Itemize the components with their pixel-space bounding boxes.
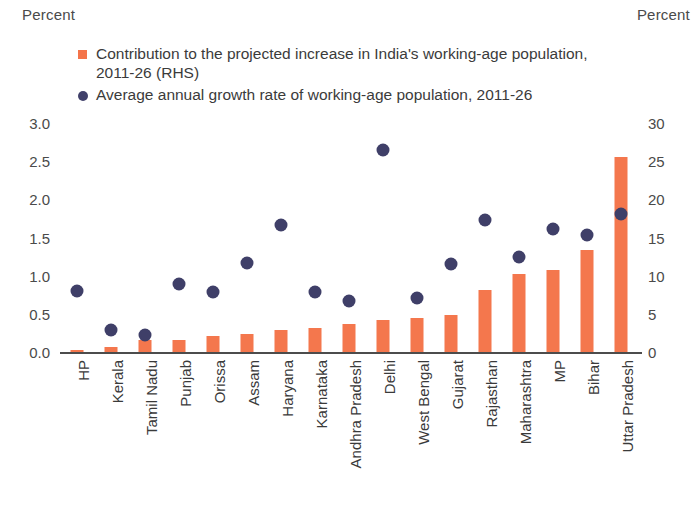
dot-punjab — [173, 278, 186, 291]
dot-uttar-pradesh — [615, 207, 628, 220]
x-tick-slot: MP — [536, 356, 570, 528]
bar-karnataka — [309, 328, 322, 352]
x-tick-slot: Gujarat — [434, 356, 468, 528]
chart-column — [162, 123, 196, 352]
right-y-tick-0: 0 — [648, 344, 656, 361]
chart-column — [264, 123, 298, 352]
left-y-tick-2.5: 2.5 — [29, 153, 50, 170]
legend-label-bar-series: Contribution to the projected increase i… — [96, 44, 596, 82]
dot-mp — [547, 223, 560, 236]
x-tick-label-delhi: Delhi — [383, 360, 396, 394]
x-tick-slot: Uttar Pradesh — [604, 356, 638, 528]
right-y-tick-30: 30 — [648, 115, 665, 132]
x-tick-label-assam: Assam — [247, 360, 260, 406]
bar-bihar — [581, 250, 594, 352]
chart-container: Percent Percent Contribution to the proj… — [0, 0, 698, 532]
bar-mp — [547, 270, 560, 352]
x-tick-slot: Rajasthan — [468, 356, 502, 528]
chart-column — [570, 123, 604, 352]
dot-kerala — [105, 323, 118, 336]
chart-column — [332, 123, 366, 352]
x-tick-label-orissa: Orissa — [213, 360, 226, 403]
chart-column — [604, 123, 638, 352]
right-y-axis: 051015202530 — [648, 0, 698, 532]
x-tick-slot: Karnataka — [298, 356, 332, 528]
left-y-tick-1.0: 1.0 — [29, 267, 50, 284]
x-tick-slot: Maharashtra — [502, 356, 536, 528]
dot-bihar — [581, 229, 594, 242]
x-tick-slot: Kerala — [94, 356, 128, 528]
chart-column — [196, 123, 230, 352]
x-tick-slot: Bihar — [570, 356, 604, 528]
left-y-tick-1.5: 1.5 — [29, 229, 50, 246]
dot-hp — [71, 284, 84, 297]
bar-assam — [241, 334, 254, 352]
x-tick-label-haryana: Haryana — [281, 360, 294, 417]
x-axis-labels: HPKeralaTamil NaduPunjabOrissaAssamHarya… — [60, 356, 638, 528]
chart-column — [468, 123, 502, 352]
chart-column — [434, 123, 468, 352]
x-tick-label-karnataka: Karnataka — [315, 360, 328, 428]
chart-column — [298, 123, 332, 352]
bar-delhi — [377, 320, 390, 352]
x-tick-label-bihar: Bihar — [587, 360, 600, 395]
x-tick-label-west-bengal: West Bengal — [417, 360, 430, 445]
dot-west-bengal — [411, 291, 424, 304]
dot-andhra-pradesh — [343, 294, 356, 307]
chart-column — [128, 123, 162, 352]
dot-delhi — [377, 143, 390, 156]
dot-haryana — [275, 219, 288, 232]
x-tick-slot: West Bengal — [400, 356, 434, 528]
right-y-tick-25: 25 — [648, 153, 665, 170]
bar-andhra-pradesh — [343, 324, 356, 352]
bar-rajasthan — [479, 290, 492, 352]
chart-column — [366, 123, 400, 352]
x-tick-label-tamil-nadu: Tamil Nadu — [145, 360, 158, 435]
dot-rajasthan — [479, 213, 492, 226]
chart-legend: Contribution to the projected increase i… — [78, 44, 598, 107]
right-y-tick-20: 20 — [648, 191, 665, 208]
bar-west-bengal — [411, 318, 424, 352]
x-tick-slot: HP — [60, 356, 94, 528]
left-y-axis: 0.00.51.01.52.02.53.0 — [0, 0, 50, 532]
left-y-tick-2.0: 2.0 — [29, 191, 50, 208]
legend-item-bar-series: Contribution to the projected increase i… — [78, 44, 598, 82]
x-tick-slot: Assam — [230, 356, 264, 528]
x-tick-label-andhra-pradesh: Andhra Pradesh — [349, 360, 362, 468]
left-y-tick-0.5: 0.5 — [29, 305, 50, 322]
x-axis-baseline — [60, 352, 642, 354]
chart-column — [502, 123, 536, 352]
bar-maharashtra — [513, 274, 526, 352]
x-tick-slot: Delhi — [366, 356, 400, 528]
dot-tamil-nadu — [139, 329, 152, 342]
bar-haryana — [275, 330, 288, 352]
dot-assam — [241, 256, 254, 269]
right-y-tick-15: 15 — [648, 229, 665, 246]
dot-gujarat — [445, 258, 458, 271]
dot-karnataka — [309, 286, 322, 299]
legend-label-dot-series: Average annual growth rate of working-ag… — [96, 85, 532, 104]
x-tick-label-mp: MP — [553, 360, 566, 383]
bar-gujarat — [445, 315, 458, 352]
legend-dot-marker-icon — [78, 85, 96, 101]
right-y-tick-5: 5 — [648, 305, 656, 322]
x-tick-label-hp: HP — [77, 360, 90, 381]
bar-punjab — [173, 340, 186, 352]
x-tick-label-gujarat: Gujarat — [451, 360, 464, 409]
dot-orissa — [207, 285, 220, 298]
x-tick-slot: Tamil Nadu — [128, 356, 162, 528]
chart-column — [536, 123, 570, 352]
legend-item-dot-series: Average annual growth rate of working-ag… — [78, 85, 598, 104]
dot-maharashtra — [513, 250, 526, 263]
right-y-tick-10: 10 — [648, 267, 665, 284]
bar-orissa — [207, 336, 220, 352]
legend-square-marker-icon — [78, 44, 96, 59]
chart-column — [230, 123, 264, 352]
x-tick-slot: Haryana — [264, 356, 298, 528]
left-y-tick-3.0: 3.0 — [29, 115, 50, 132]
x-tick-label-rajasthan: Rajasthan — [485, 360, 498, 428]
x-tick-slot: Andhra Pradesh — [332, 356, 366, 528]
x-tick-slot: Orissa — [196, 356, 230, 528]
x-tick-label-uttar-pradesh: Uttar Pradesh — [621, 360, 634, 453]
x-tick-label-kerala: Kerala — [111, 360, 124, 403]
